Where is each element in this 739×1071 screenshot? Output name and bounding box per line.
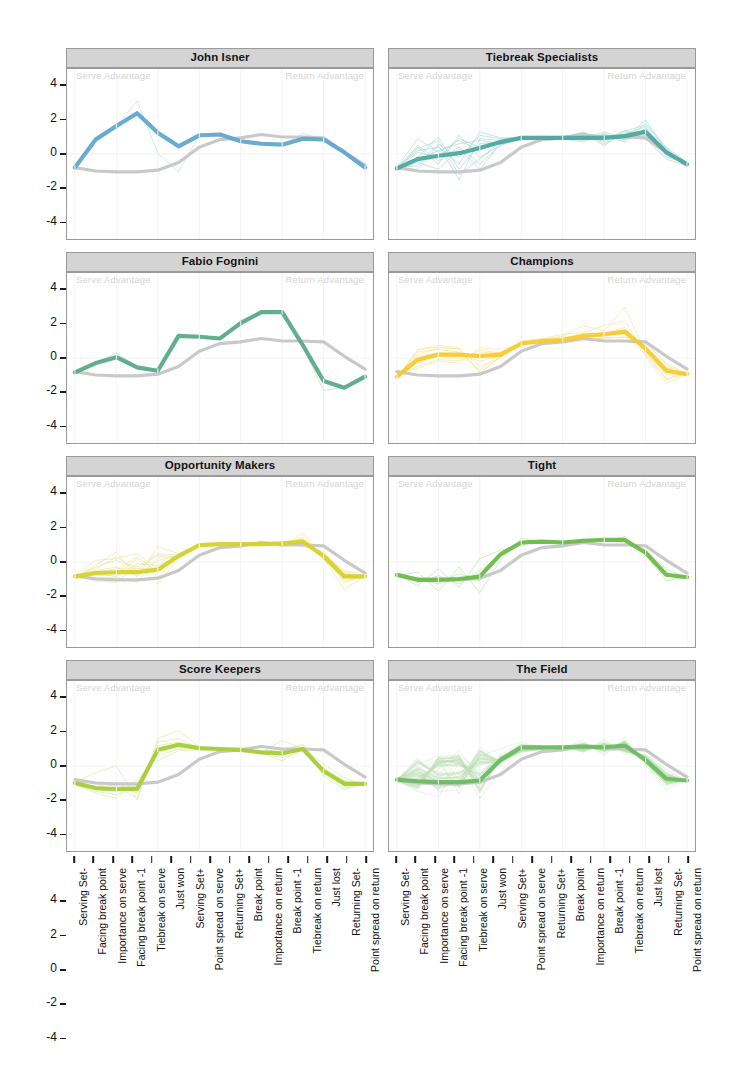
plot-area [388,68,696,240]
x-axis-label: Serving Set- [78,868,89,926]
y-tick-label: -2 [46,792,57,804]
y-tick-label: -2 [46,384,57,396]
x-axis-group: Serving Set-Facing break pointImportance… [388,856,696,1071]
x-axis-tick [171,856,173,863]
x-axis-tick [190,856,192,863]
panel-title: Tight [528,460,556,472]
panel-title: Champions [510,256,574,268]
x-axis-label: Importance on serve [117,868,128,964]
panel-title-strip: John Isner [66,48,374,68]
x-axis-tick [551,856,553,863]
x-axis-tick [73,856,75,863]
gridlines [67,681,373,851]
plot-svg [389,273,695,443]
x-axis-tick [590,856,592,863]
y-tick-label: 4 [50,485,57,497]
x-axis-tick [287,856,289,863]
y-tick-label: 2 [50,520,57,532]
x-axis-tick [648,856,650,863]
x-axis-tick [132,856,134,863]
x-axis-tick [229,856,231,863]
panel-tiebreak-specialists: Tiebreak SpecialistsServe AdvantageRetur… [388,44,696,248]
x-axis-tick [307,856,309,863]
panel-title: The Field [516,664,567,676]
x-axis-tick [512,856,514,863]
plot-area [388,680,696,852]
plot-svg [67,477,373,647]
y-tick-label: -4 [46,419,57,431]
gridlines [389,477,695,647]
plot-svg [389,477,695,647]
x-axis-label: Just won [175,868,186,909]
x-axis-label: Point spread on return [692,868,703,972]
plot-area [388,476,696,648]
reference-mean-line [75,746,365,783]
x-axis-tick [268,856,270,863]
plot-svg [389,681,695,851]
x-axis-label: Tiebreak on return [312,868,323,953]
x-axis-tick [209,856,211,863]
panel-title-strip: Champions [388,252,696,272]
x-axis-label: Returning Set- [673,868,684,936]
x-axis-tick [473,856,475,863]
panel-title-strip: Fabio Fognini [66,252,374,272]
y-tick-label: -4 [46,827,57,839]
x-axis-label: Point spread on return [370,868,381,972]
x-axis-label: Returning Set+ [556,868,567,938]
mean-line-node-ticks [75,310,365,384]
x-axis-tick [346,856,348,863]
panel-the-field: The FieldServe AdvantageReturn Advantage [388,656,696,860]
x-axis: Serving Set-Facing break pointImportance… [0,856,739,1071]
panel-title-strip: Score Keepers [66,660,374,680]
panel-title-strip: Opportunity Makers [66,456,374,476]
plot-area [66,272,374,444]
reference-mean-line [397,542,687,579]
plot-svg [389,69,695,239]
panel-title-strip: Tiebreak Specialists [388,48,696,68]
panel-fabio-fognini: Fabio FogniniServe AdvantageReturn Advan… [66,248,374,452]
x-axis-label: Tiebreak on return [634,868,645,953]
x-axis-label: Serving Set- [400,868,411,926]
x-axis-label: Point spread on serve [214,868,225,970]
x-axis-label: Break point -1 [614,868,625,933]
y-tick-label: 4 [50,689,57,701]
y-tick-label: 2 [50,724,57,736]
x-axis-tick [493,856,495,863]
panel-opportunity-makers: Opportunity MakersServe AdvantageReturn … [66,452,374,656]
x-axis-tick [687,856,689,863]
x-axis-label: Just won [497,868,508,909]
x-axis-label: Facing break point [419,868,430,954]
x-axis-label: Break point -1 [292,868,303,933]
panel-title: John Isner [190,52,249,64]
y-tick-label: -2 [46,588,57,600]
y-tick-label: 0 [50,350,57,362]
plot-svg [67,681,373,851]
x-axis-tick [570,856,572,863]
x-axis-tick [365,856,367,863]
panel-grid: John IsnerServe AdvantageReturn Advantag… [66,44,696,856]
x-axis-tick [112,856,114,863]
x-axis-tick [248,856,250,863]
x-axis-label: Tiebreak on serve [156,868,167,952]
y-tick-label: 0 [50,554,57,566]
x-axis-label: Returning Set+ [234,868,245,938]
y-tick-label: -4 [46,623,57,635]
y-tick-label: 2 [50,112,57,124]
x-axis-label: Importance on return [595,868,606,965]
x-axis-tick [609,856,611,863]
x-axis-label: Just lost [653,868,664,907]
x-axis-label: Tiebreak on serve [478,868,489,952]
panel-score-keepers: Score KeepersServe AdvantageReturn Advan… [66,656,374,860]
x-axis-group: Serving Set-Facing break pointImportance… [66,856,374,1071]
x-axis-tick [151,856,153,863]
plot-area [66,680,374,852]
panel-tight: TightServe AdvantageReturn Advantage [388,452,696,656]
panel-title: Fabio Fognini [182,256,259,268]
figure-root: 420-2-4420-2-4420-2-4420-2-4420-2-4420-2… [0,0,739,1071]
panel-title: Score Keepers [179,664,261,676]
panel-champions: ChampionsServe AdvantageReturn Advantage [388,248,696,452]
x-axis-tick [434,856,436,863]
y-tick-label: -2 [46,180,57,192]
x-axis-label: Serving Set+ [195,868,206,928]
x-axis-label: Importance on return [273,868,284,965]
